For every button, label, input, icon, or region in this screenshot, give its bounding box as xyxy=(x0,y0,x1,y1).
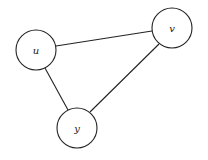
graph-diagram: u v y xyxy=(0,0,208,160)
node-v-label: v xyxy=(169,23,175,34)
node-u-label: u xyxy=(33,45,39,56)
edge-v-y xyxy=(90,44,159,112)
edge-u-y xyxy=(45,68,68,110)
edge-u-v xyxy=(56,31,152,46)
node-y: y xyxy=(57,108,97,148)
node-u: u xyxy=(16,30,56,70)
node-v: v xyxy=(152,8,192,48)
node-y-label: y xyxy=(73,123,80,134)
